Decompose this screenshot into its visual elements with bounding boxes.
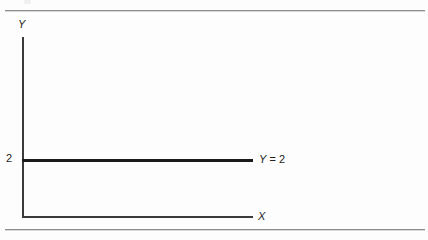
page-rule-top: [5, 10, 425, 11]
y-axis-label: Y: [18, 19, 25, 30]
line-equation-operator: =: [266, 153, 279, 165]
line-equation-label: Y = 2: [259, 154, 285, 165]
y-axis-line: [22, 37, 24, 218]
y-axis-tick-label-2: 2: [6, 153, 12, 164]
x-axis-line: [22, 216, 253, 218]
scan-artifact: [24, 0, 31, 4]
figure-canvas: Y X 2 Y = 2: [0, 0, 428, 240]
x-axis-label: X: [258, 211, 265, 222]
line-equation-value: 2: [279, 153, 285, 165]
plot-line-y-equals-2: [22, 159, 253, 162]
page-rule-bottom: [5, 229, 425, 230]
